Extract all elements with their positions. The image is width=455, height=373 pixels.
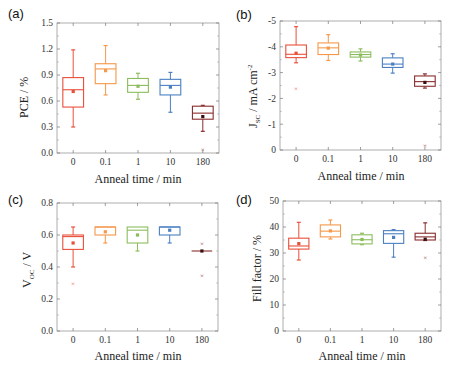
plot-frame bbox=[283, 201, 441, 331]
x-tick-label: 1 bbox=[360, 335, 365, 345]
box-10 bbox=[383, 230, 403, 258]
x-tick-label: 0 bbox=[296, 335, 301, 345]
y-tick-label: 0 bbox=[274, 326, 279, 336]
box-0 bbox=[289, 222, 309, 260]
box-0.1 bbox=[320, 220, 340, 239]
y-tick-label: 10 bbox=[270, 300, 280, 310]
x-axis-label-d: Anneal time / min bbox=[302, 349, 422, 364]
y-tick-label: 50 bbox=[270, 196, 280, 206]
x-tick-label: 10 bbox=[389, 335, 399, 345]
box-180: × bbox=[415, 223, 435, 262]
y-tick-label: 20 bbox=[270, 274, 280, 284]
y-tick-label: 30 bbox=[270, 248, 280, 258]
x-tick-label: 180 bbox=[418, 335, 433, 345]
x-tick-label: 0.1 bbox=[324, 335, 336, 345]
box-1 bbox=[352, 233, 372, 244]
box-plot-fill-factor: 0102030405000.1110180× bbox=[0, 0, 455, 373]
y-tick-label: 40 bbox=[270, 222, 280, 232]
svg-text:×: × bbox=[423, 254, 427, 262]
